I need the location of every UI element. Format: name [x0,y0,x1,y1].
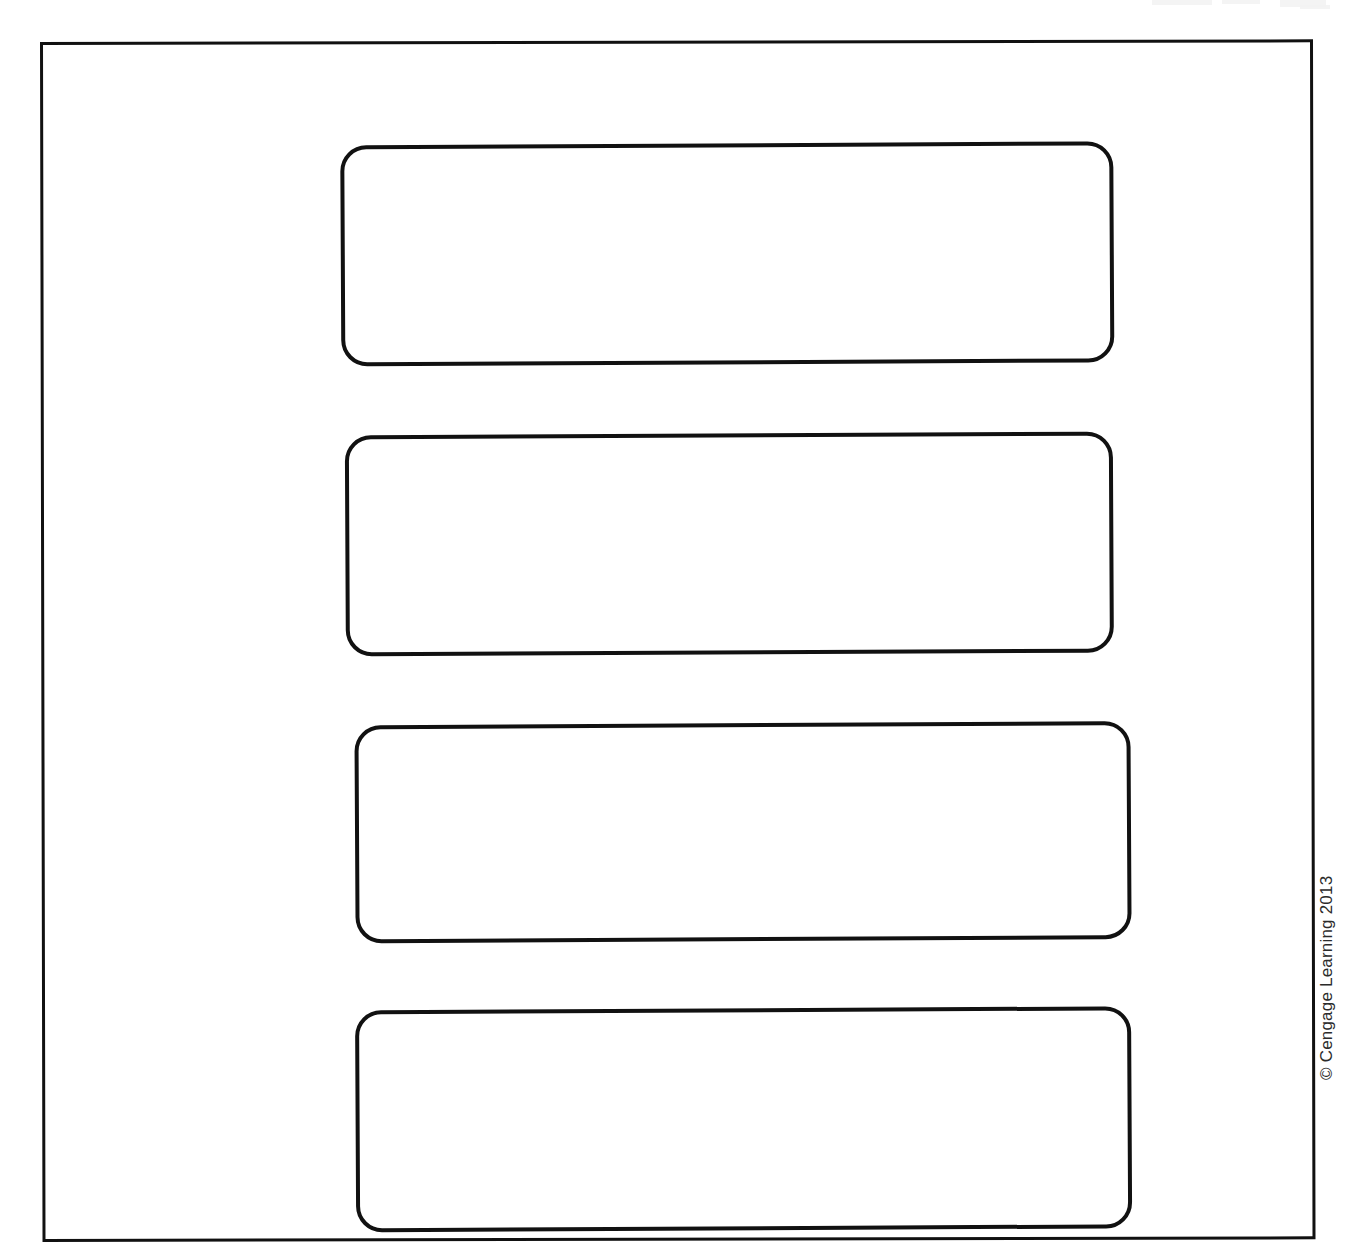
scan-artifact [1152,0,1212,5]
answer-box-1[interactable] [340,141,1114,366]
copyright-credit: © Cengage Learning 2013 [1318,876,1335,1080]
outer-border [40,39,1316,1242]
scan-artifact [1222,0,1260,4]
answer-box-2[interactable] [345,432,1114,657]
answer-box-4[interactable] [355,1006,1132,1232]
worksheet-page: © Cengage Learning 2013 [0,0,1358,1252]
answer-box-3[interactable] [354,721,1131,943]
scan-artifact [1300,5,1330,9]
